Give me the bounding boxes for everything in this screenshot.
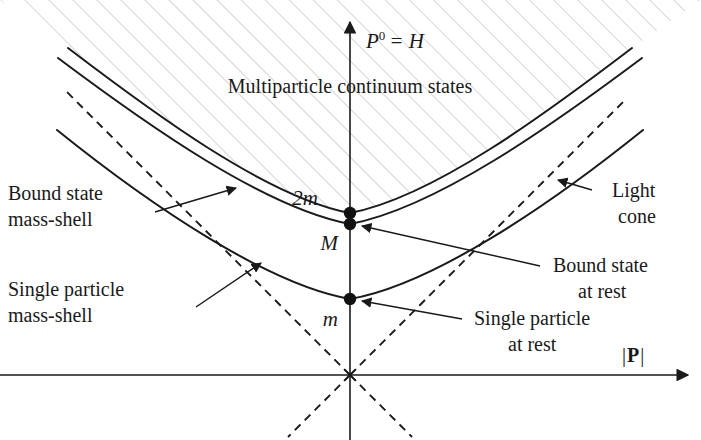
horizontal-axis-label-symbol: P (627, 344, 639, 366)
abs-bar-right: | (640, 344, 644, 367)
horizontal-axis-label: |P| (622, 344, 644, 367)
tick-label-big-m: M (320, 231, 340, 255)
annotation-bound-state-at-rest: Bound state at rest (553, 254, 648, 302)
leader-single-particle-mass-shell (196, 263, 261, 307)
annotation-light-cone-line2: cone (618, 205, 656, 227)
annotation-light-cone: Light cone (612, 179, 656, 227)
annotation-single-particle-mass-shell: Single particle mass-shell (8, 278, 124, 326)
vertical-axis-label-equals: = H (389, 29, 425, 53)
region-label-multiparticle-continuum: Multiparticle continuum states (228, 75, 473, 98)
vertical-axis-label-symbol: P (365, 29, 379, 53)
annotation-bound-state-mass-shell-line2: mass-shell (8, 208, 93, 230)
vertical-axis-label: P0= H (365, 28, 426, 53)
figure-canvas: P0= H |P| Multiparticle continuum states… (0, 0, 701, 440)
dot-m (344, 293, 356, 305)
annotation-single-particle-mass-shell-line1: Single particle (8, 278, 124, 301)
vertical-axis-label-superscript: 0 (379, 28, 386, 43)
annotation-single-particle-at-rest-line2: at rest (508, 333, 557, 355)
spectrum-figure: P0= H |P| Multiparticle continuum states… (0, 0, 701, 440)
abs-bar-left: | (622, 344, 626, 367)
annotation-single-particle-at-rest: Single particle at rest (474, 307, 590, 355)
annotation-bound-state-mass-shell-line1: Bound state (8, 182, 103, 204)
annotation-bound-state-at-rest-line1: Bound state (553, 254, 648, 276)
light-cone-ray-lower-left (288, 375, 350, 437)
annotation-single-particle-at-rest-line1: Single particle (474, 307, 590, 330)
leader-single-particle-at-rest (362, 301, 462, 319)
svg-text:|P|: |P| (622, 344, 644, 367)
tick-label-two-m: 2m (292, 186, 318, 210)
annotation-bound-state-mass-shell: Bound state mass-shell (8, 182, 103, 230)
tick-label-m: m (323, 307, 338, 331)
light-cone-ray-lower-right (350, 375, 412, 437)
annotation-single-particle-mass-shell-line2: mass-shell (8, 304, 93, 326)
annotation-light-cone-line1: Light (612, 179, 656, 202)
dot-big-m (344, 218, 356, 230)
annotation-bound-state-at-rest-line2: at rest (578, 280, 627, 302)
svg-text:P0= H: P0= H (365, 28, 426, 53)
dot-two-m (344, 207, 356, 219)
